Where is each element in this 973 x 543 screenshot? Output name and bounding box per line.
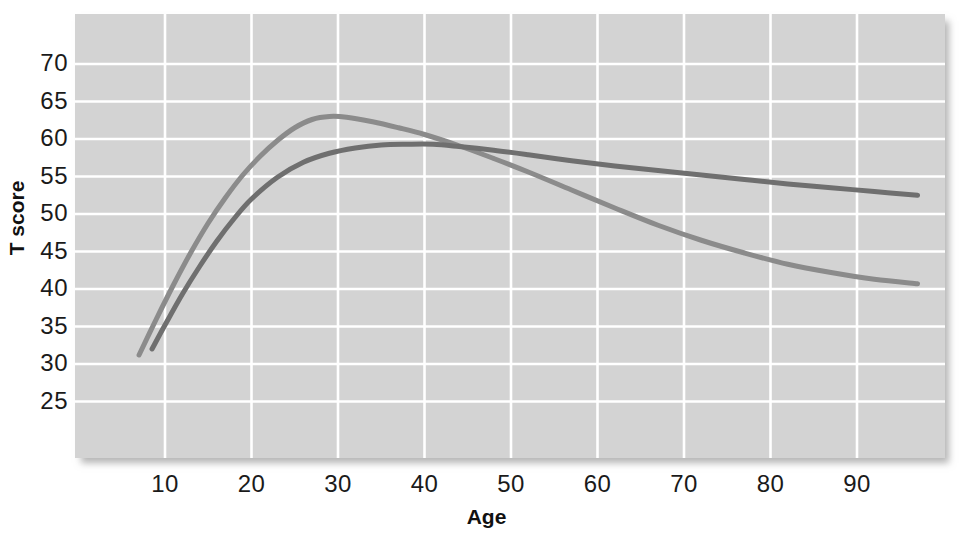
x-tick-label-30: 30 bbox=[303, 470, 373, 498]
chart-figure: 70656055504540353025 T score 10203040506… bbox=[0, 0, 973, 543]
x-tick-label-60: 60 bbox=[563, 470, 633, 498]
series-line-curve-light bbox=[139, 116, 918, 355]
x-tick-label-80: 80 bbox=[736, 470, 806, 498]
x-tick-label-10: 10 bbox=[130, 470, 200, 498]
y-tick-label-30: 30 bbox=[0, 349, 68, 377]
plot-area bbox=[75, 14, 945, 458]
y-tick-label-25: 25 bbox=[0, 387, 68, 415]
y-tick-label-65: 65 bbox=[0, 87, 68, 115]
x-axis-title: Age bbox=[0, 505, 973, 529]
x-tick-label-70: 70 bbox=[649, 470, 719, 498]
data-series-group bbox=[139, 116, 918, 355]
x-tick-label-40: 40 bbox=[390, 470, 460, 498]
y-tick-label-70: 70 bbox=[0, 49, 68, 77]
x-axis-tick-labels: 102030405060708090 bbox=[0, 470, 973, 504]
x-tick-label-90: 90 bbox=[822, 470, 892, 498]
y-tick-label-60: 60 bbox=[0, 124, 68, 152]
y-tick-label-40: 40 bbox=[0, 274, 68, 302]
x-tick-label-50: 50 bbox=[476, 470, 546, 498]
y-tick-label-35: 35 bbox=[0, 312, 68, 340]
x-tick-label-20: 20 bbox=[217, 470, 287, 498]
vertical-gridlines bbox=[165, 14, 857, 458]
plot-svg bbox=[75, 14, 945, 458]
y-axis-title: T score bbox=[5, 163, 29, 273]
